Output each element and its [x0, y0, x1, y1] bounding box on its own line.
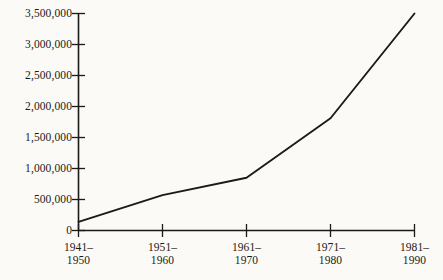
line-chart-figure: 0500,0001,000,0001,500,0002,000,0002,500… [0, 0, 443, 280]
x-axis-tick-label-line: 1990 [373, 254, 443, 268]
x-axis-tick-label-line: 1950 [37, 254, 121, 268]
x-axis-tick-label-line: 1981– [373, 241, 443, 255]
x-axis-tick-label-line: 1970 [205, 254, 289, 268]
x-axis-tick-label: 1951–1960 [121, 241, 205, 268]
x-axis-tick-label-line: 1980 [289, 254, 373, 268]
x-axis-tick-label-line: 1941– [37, 241, 121, 255]
x-axis-tick-label-line: 1971– [289, 241, 373, 255]
x-axis-tick-label-line: 1951– [121, 241, 205, 255]
x-axis-tick-label: 1961–1970 [205, 241, 289, 268]
x-axis-tick-label-line: 1961– [205, 241, 289, 255]
x-axis-tick-label: 1971–1980 [289, 241, 373, 268]
x-axis-tick-label: 1941–1950 [37, 241, 121, 268]
x-axis-tick-labels: 1941–19501951–19601961–19701971–19801981… [0, 0, 443, 280]
x-axis-tick-label-line: 1960 [121, 254, 205, 268]
x-axis-tick-label: 1981–1990 [373, 241, 443, 268]
